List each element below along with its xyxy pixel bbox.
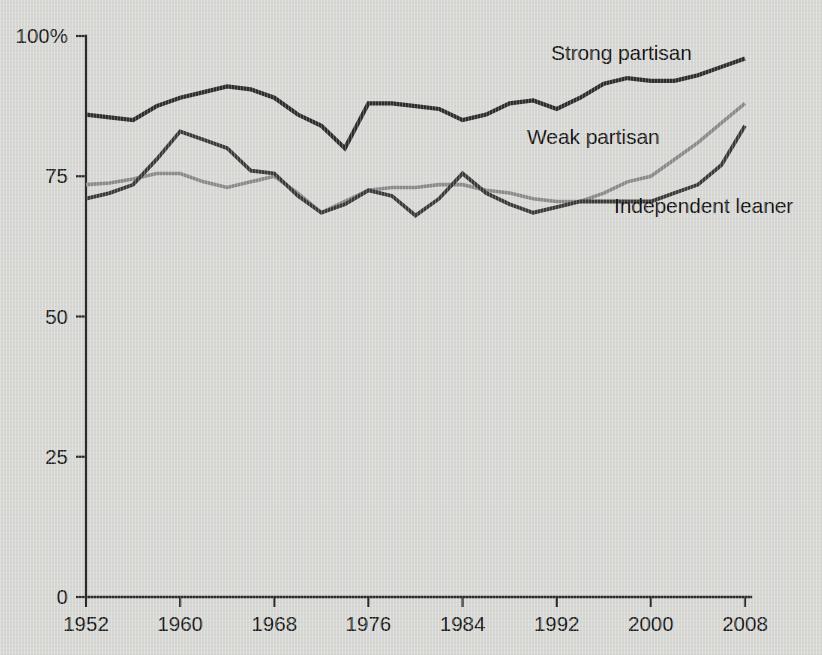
y-tick-label: 75 [45,164,68,187]
x-tick-label: 1984 [440,612,486,635]
y-tick-label: 0 [57,585,68,608]
y-tick-label: 100% [16,24,68,47]
chart-canvas: 0255075100% 1952196019681976198419922000… [0,0,822,655]
x-tick-label: 1976 [346,612,392,635]
x-tick-label: 1992 [534,612,580,635]
x-tick-label: 2000 [628,612,674,635]
series-label-independent-leaner: Independent leaner [614,194,793,218]
x-axis: 19521960196819761984199220002008 [63,597,768,635]
y-axis: 0255075100% [16,24,86,608]
x-tick-label: 1952 [63,612,109,635]
y-axis-ticks: 0255075100% [16,24,86,608]
x-tick-label: 1960 [157,612,203,635]
line-chart: 0255075100% 1952196019681976198419922000… [0,0,822,655]
y-tick-label: 50 [45,305,68,328]
x-axis-ticks: 19521960196819761984199220002008 [63,597,768,635]
x-tick-label: 2008 [722,612,768,635]
y-tick-label: 25 [45,445,68,468]
series-label-weak-partisan: Weak partisan [527,125,660,149]
x-tick-label: 1968 [251,612,297,635]
series-label-strong-partisan: Strong partisan [551,41,692,65]
